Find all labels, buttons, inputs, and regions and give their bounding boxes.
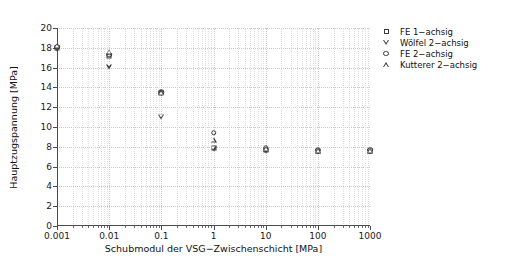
y-axis-title: Hauptzugspannung [MPa] — [6, 28, 20, 226]
marker-triangle-up — [106, 49, 112, 54]
x-tick-minor — [177, 226, 178, 228]
y-tick-label: 2 — [46, 201, 52, 211]
x-tick-minor — [229, 226, 230, 228]
x-tick-label: 0.001 — [44, 231, 70, 241]
data-point — [211, 130, 217, 136]
x-tick-minor — [150, 226, 151, 228]
x-tick-minor — [238, 226, 239, 228]
x-tick-label: 0.1 — [154, 231, 168, 241]
data-point — [211, 146, 217, 151]
x-tick-minor — [101, 226, 102, 228]
x-tick-label: 0.01 — [99, 231, 119, 241]
legend-marker — [378, 26, 394, 37]
y-tick-label: 12 — [41, 102, 52, 112]
x-tick — [161, 226, 162, 230]
y-tick — [53, 186, 57, 187]
x-tick — [266, 226, 267, 230]
x-tick-minor — [104, 226, 105, 228]
y-tick-label: 8 — [46, 142, 52, 152]
x-tick-minor — [261, 226, 262, 228]
y-tick — [53, 206, 57, 207]
x-tick-minor — [202, 226, 203, 228]
plot-area: 02468101214161820 0.0010.010.11101001000 — [57, 28, 370, 226]
x-tick-minor — [362, 226, 363, 228]
x-tick-minor — [263, 226, 264, 228]
y-tick-label: 20 — [41, 23, 52, 33]
marker-triangle-up — [383, 62, 389, 67]
y-tick — [53, 87, 57, 88]
x-tick-minor — [297, 226, 298, 228]
x-tick-minor — [198, 226, 199, 228]
x-tick-minor — [254, 226, 255, 228]
marker-triangle-up — [158, 90, 164, 95]
x-tick-minor — [250, 226, 251, 228]
x-tick — [214, 226, 215, 230]
marker-triangle-up — [263, 146, 269, 151]
x-tick-minor — [205, 226, 206, 228]
legend-marker — [378, 59, 394, 70]
x-tick-minor — [186, 226, 187, 228]
x-axis-title: Schubmodul der VSG−Zwischenschicht [MPa] — [57, 243, 370, 254]
x-tick — [318, 226, 319, 230]
data-point — [158, 90, 164, 95]
legend-marker — [378, 48, 394, 59]
x-tick-minor — [310, 226, 311, 228]
x-tick-minor — [73, 226, 74, 228]
x-tick-minor — [258, 226, 259, 228]
data-point — [158, 115, 164, 120]
x-tick-minor — [134, 226, 135, 228]
x-tick — [109, 226, 110, 230]
axes-frame — [57, 28, 370, 226]
x-tick-minor — [343, 226, 344, 228]
y-tick-label: 10 — [41, 122, 52, 132]
legend-item: Wölfel 2−achsig — [378, 37, 506, 48]
x-tick-minor — [334, 226, 335, 228]
data-point — [106, 49, 112, 54]
data-point — [106, 64, 112, 69]
x-tick-minor — [281, 226, 282, 228]
legend-label: FE 1−achsig — [394, 27, 453, 37]
x-tick-minor — [125, 226, 126, 228]
x-tick-label: 1 — [211, 231, 217, 241]
x-tick-minor — [349, 226, 350, 228]
data-point — [54, 43, 60, 48]
legend: FE 1−achsigWölfel 2−achsigFE 2−achsigKut… — [378, 26, 506, 70]
x-tick-minor — [98, 226, 99, 228]
x-tick-label: 10 — [260, 231, 271, 241]
marker-triangle-down — [383, 40, 389, 45]
x-tick-minor — [82, 226, 83, 228]
x-tick-minor — [354, 226, 355, 228]
marker-triangle-up — [211, 137, 217, 142]
x-tick-minor — [141, 226, 142, 228]
x-tick-minor — [153, 226, 154, 228]
data-point — [315, 148, 321, 153]
marker-triangle-up — [315, 148, 321, 153]
marker-triangle-down — [211, 146, 217, 151]
x-tick-minor — [365, 226, 366, 228]
x-tick — [57, 226, 58, 230]
legend-label: Wölfel 2−achsig — [394, 38, 469, 48]
x-tick-minor — [193, 226, 194, 228]
x-tick-minor — [208, 226, 209, 228]
legend-label: FE 2−achsig — [394, 49, 453, 59]
marker-triangle-up — [54, 43, 60, 48]
marker-triangle-up — [367, 148, 373, 153]
y-tick-label: 0 — [46, 221, 52, 231]
data-point — [367, 148, 373, 153]
legend-item: FE 2−achsig — [378, 48, 506, 59]
x-tick-minor — [291, 226, 292, 228]
legend-label: Kutterer 2−achsig — [394, 60, 477, 70]
x-tick-minor — [302, 226, 303, 228]
x-tick-label: 100 — [309, 231, 326, 241]
x-tick-minor — [211, 226, 212, 228]
x-tick-minor — [358, 226, 359, 228]
x-tick-minor — [93, 226, 94, 228]
y-tick-label: 14 — [41, 82, 52, 92]
y-axis-title-text: Hauptzugspannung [MPa] — [8, 66, 19, 188]
marker-circle — [211, 130, 217, 136]
legend-item: FE 1−achsig — [378, 26, 506, 37]
data-point — [263, 146, 269, 151]
y-tick-label: 4 — [46, 181, 52, 191]
marker-circle — [383, 51, 389, 57]
x-tick-label: 1000 — [359, 231, 382, 241]
